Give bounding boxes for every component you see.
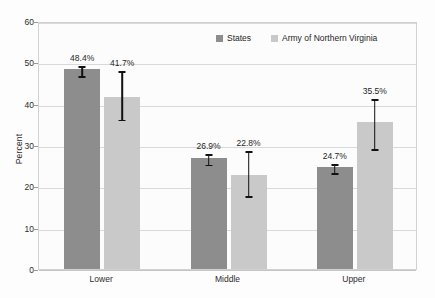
legend-label: States	[227, 33, 251, 43]
legend-label: Army of Northern Virginia	[282, 33, 377, 43]
bar-value-label: 22.8%	[236, 138, 260, 148]
x-axis-tick-label: Upper	[342, 274, 365, 284]
error-bar-cap	[79, 76, 86, 78]
error-bar-cap	[205, 165, 212, 167]
y-axis-tick-label: 50	[0, 58, 34, 68]
x-axis-tick-label: Lower	[90, 274, 113, 284]
error-bar-cap	[331, 164, 338, 166]
y-axis-tick-label: 0	[0, 265, 34, 275]
bar-value-label: 26.9%	[196, 141, 220, 151]
bar-value-label: 48.4%	[70, 53, 94, 63]
gridline	[39, 270, 416, 271]
legend-swatch-icon	[271, 35, 278, 42]
error-bar-cap	[245, 151, 252, 153]
bar[interactable]	[104, 97, 140, 269]
y-axis-tick-label: 10	[0, 224, 34, 234]
error-bar	[374, 99, 376, 149]
y-axis-tick-mark	[33, 146, 38, 147]
y-axis-tick-mark	[33, 270, 38, 271]
error-bar-cap	[245, 196, 252, 198]
y-axis-tick-mark	[33, 105, 38, 106]
x-axis-tick-labels: LowerMiddleUpper	[38, 274, 417, 292]
error-bar-cap	[119, 71, 126, 73]
bar-chart: Percent 0102030405060 48.4%41.7%26.9%22.…	[0, 0, 435, 298]
bar-value-label: 41.7%	[110, 58, 134, 68]
y-axis-tick-mark	[33, 187, 38, 188]
y-axis-tick-mark	[33, 63, 38, 64]
error-bar	[248, 151, 250, 196]
bar-value-label: 35.5%	[363, 86, 387, 96]
y-axis-tick-mark	[33, 229, 38, 230]
x-axis-tick-label: Middle	[215, 274, 240, 284]
error-bar-cap	[79, 66, 86, 68]
error-bar-cap	[205, 154, 212, 156]
bar[interactable]	[64, 69, 100, 269]
legend-swatch-icon	[216, 35, 223, 42]
legend-item[interactable]: Army of Northern Virginia	[271, 33, 377, 43]
y-axis-tick-label: 30	[0, 141, 34, 151]
legend-item[interactable]: States	[216, 33, 251, 43]
error-bar-cap	[331, 173, 338, 175]
y-axis-tick-mark	[33, 22, 38, 23]
bar[interactable]	[191, 158, 227, 269]
y-axis-tick-label: 60	[0, 17, 34, 27]
y-axis-tick-label: 40	[0, 100, 34, 110]
error-bar-cap	[119, 120, 126, 122]
bars-group: 48.4%41.7%26.9%22.8%24.7%35.5%	[39, 23, 416, 269]
error-bar-cap	[371, 149, 378, 151]
y-axis-tick-label: 20	[0, 182, 34, 192]
error-bar	[121, 71, 123, 119]
error-bar-cap	[371, 99, 378, 101]
bar[interactable]	[317, 167, 353, 269]
y-axis-tick-labels: 0102030405060	[0, 0, 34, 298]
plot-area: 48.4%41.7%26.9%22.8%24.7%35.5% StatesArm…	[38, 22, 417, 270]
bar-value-label: 24.7%	[323, 151, 347, 161]
